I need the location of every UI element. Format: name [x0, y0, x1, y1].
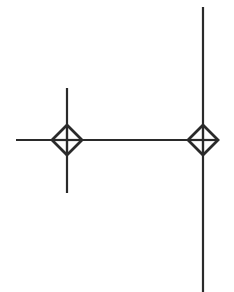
- right-junction-diamond: [188, 125, 218, 155]
- lines-layer: [16, 7, 203, 292]
- left-junction-diamond: [52, 125, 82, 155]
- junction-diagram: [0, 0, 234, 292]
